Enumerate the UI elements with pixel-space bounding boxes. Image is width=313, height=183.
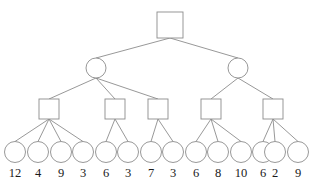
- leaf-value-label: 10: [235, 166, 248, 180]
- tree-edge: [273, 119, 275, 142]
- leaf-value-label: 9: [58, 166, 64, 180]
- tree-node-leaf: [231, 142, 252, 163]
- tree-node-leaf: [186, 142, 207, 163]
- tree-edge: [96, 38, 170, 58]
- tree-edge: [151, 119, 158, 142]
- tree-node-leaf: [208, 142, 229, 163]
- tree-edge: [170, 38, 238, 58]
- tree-node-leaf: [265, 142, 286, 163]
- leaf-value-label: 6: [260, 166, 266, 180]
- tree-node-leaf: [141, 142, 162, 163]
- leaf-value-label: 4: [35, 166, 42, 180]
- tree-node-leaf: [163, 142, 184, 163]
- tree-node-internal-square: [39, 99, 59, 119]
- label-layer: 1249363736810629: [9, 166, 301, 180]
- tree-node-leaf: [5, 142, 26, 163]
- tree-node-leaf: [73, 142, 94, 163]
- tree-node-leaf: [288, 142, 309, 163]
- tree-edge: [211, 78, 238, 99]
- tree-edge: [49, 119, 83, 142]
- leaf-value-label: 3: [170, 166, 176, 180]
- tree-node-leaf: [118, 142, 139, 163]
- tree-node-root: [157, 12, 183, 38]
- tree-node-internal-square: [201, 99, 221, 119]
- leaf-value-label: 8: [215, 166, 221, 180]
- tree-edge: [49, 78, 96, 99]
- tree-edge: [211, 119, 241, 142]
- tree-node-internal-circle: [228, 58, 248, 78]
- node-layer: [5, 12, 309, 163]
- tree-node-internal-square: [148, 99, 168, 119]
- tree-edge: [158, 119, 173, 142]
- tree-svg: 1249363736810629: [0, 0, 313, 183]
- tree-node-internal-square: [263, 99, 283, 119]
- tree-edge: [196, 119, 211, 142]
- tree-edge: [115, 119, 128, 142]
- tree-edge: [49, 119, 61, 142]
- leaf-value-label: 3: [80, 166, 86, 180]
- leaf-value-label: 6: [193, 166, 199, 180]
- leaf-value-label: 2: [272, 166, 278, 180]
- tree-edge: [273, 119, 298, 142]
- tree-node-leaf: [96, 142, 117, 163]
- tree-edge: [211, 119, 218, 142]
- tree-node-leaf: [28, 142, 49, 163]
- leaf-value-label: 6: [103, 166, 109, 180]
- tree-node-internal-square: [105, 99, 125, 119]
- tree-node-internal-circle: [86, 58, 106, 78]
- leaf-value-label: 3: [125, 166, 131, 180]
- tree-edge: [106, 119, 115, 142]
- leaf-value-label: 7: [148, 166, 154, 180]
- edge-layer: [15, 38, 298, 142]
- tree-diagram: 1249363736810629: [0, 0, 313, 183]
- leaf-value-label: 9: [295, 166, 301, 180]
- tree-node-leaf: [51, 142, 72, 163]
- tree-edge: [263, 119, 273, 142]
- leaf-value-label: 12: [9, 166, 22, 180]
- tree-edge: [238, 78, 273, 99]
